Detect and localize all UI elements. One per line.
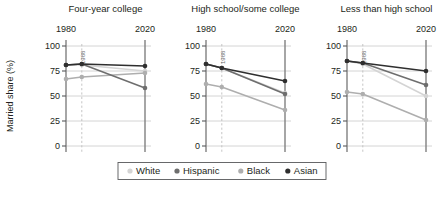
y-tick-label-100: 100 — [185, 41, 200, 51]
chart-figure: Married share (%)19880255075100Four-year… — [0, 0, 437, 197]
legend-marker-asian[interactable] — [285, 168, 290, 173]
data-point-hispanic — [143, 86, 148, 91]
data-point-asian — [204, 62, 209, 67]
panel-title-1: Four-year college — [69, 3, 143, 14]
legend-label-hispanic: Hispanic — [183, 165, 220, 176]
y-tick-label-50: 50 — [331, 91, 341, 101]
data-point-black — [424, 118, 429, 123]
data-point-asian — [143, 64, 148, 69]
x-tick-label-2020: 2020 — [135, 24, 155, 34]
panel-3: 19880255075100Less than high school19802… — [326, 3, 436, 152]
legend-label-white: White — [136, 165, 160, 176]
legend-label-black: Black — [247, 165, 270, 176]
y-tick-label-25: 25 — [50, 116, 60, 126]
data-point-black — [80, 75, 85, 80]
legend-marker-black[interactable] — [238, 168, 243, 173]
data-point-black — [204, 82, 209, 87]
slope-chart-panels: Married share (%)19880255075100Four-year… — [0, 0, 437, 197]
data-point-asian — [64, 63, 69, 68]
x-tick-label-2020: 2020 — [275, 24, 295, 34]
data-point-hispanic — [283, 92, 288, 97]
series-line-black — [66, 73, 145, 79]
y-axis-title: Married share (%) — [5, 60, 15, 132]
y-tick-label-50: 50 — [50, 91, 60, 101]
x-tick-label-2020: 2020 — [416, 24, 436, 34]
x-tick-label-1980: 1980 — [337, 24, 357, 34]
legend-marker-white[interactable] — [127, 168, 132, 173]
y-tick-label-75: 75 — [331, 66, 341, 76]
y-tick-label-25: 25 — [331, 116, 341, 126]
panel-title-3: Less than high school — [341, 3, 433, 14]
data-point-black — [361, 92, 366, 97]
legend-marker-hispanic[interactable] — [174, 168, 179, 173]
data-point-hispanic — [424, 83, 429, 88]
x-tick-label-1980: 1980 — [56, 24, 76, 34]
data-point-black — [220, 85, 225, 90]
y-tick-label-0: 0 — [336, 141, 341, 151]
legend-label-asian: Asian — [294, 165, 318, 176]
y-tick-label-100: 100 — [45, 41, 60, 51]
data-point-black — [64, 77, 69, 82]
data-point-asian — [283, 79, 288, 84]
y-tick-label-50: 50 — [190, 91, 200, 101]
y-tick-label-0: 0 — [55, 141, 60, 151]
legend: WhiteHispanicBlackAsian — [118, 163, 326, 180]
y-tick-label-75: 75 — [190, 66, 200, 76]
data-point-asian — [345, 59, 350, 64]
data-point-asian — [220, 66, 225, 71]
panel-2: 19880255075100High school/some college19… — [185, 3, 300, 152]
y-tick-label-75: 75 — [50, 66, 60, 76]
data-point-asian — [361, 61, 366, 66]
y-tick-label-0: 0 — [195, 141, 200, 151]
y-tick-label-25: 25 — [190, 116, 200, 126]
reference-line-label: 1988 — [220, 50, 226, 64]
data-point-black — [283, 108, 288, 113]
series-line-asian — [347, 61, 426, 71]
data-point-black — [345, 90, 350, 95]
data-point-black — [143, 71, 148, 76]
data-point-asian — [80, 62, 85, 67]
series-line-hispanic — [347, 61, 426, 85]
data-point-asian — [424, 69, 429, 74]
data-point-white — [424, 94, 429, 99]
y-tick-label-100: 100 — [326, 41, 341, 51]
panel-title-2: High school/some college — [191, 3, 299, 14]
panel-1: 19880255075100Four-year college19802020 — [45, 3, 155, 152]
x-tick-label-1980: 1980 — [196, 24, 216, 34]
